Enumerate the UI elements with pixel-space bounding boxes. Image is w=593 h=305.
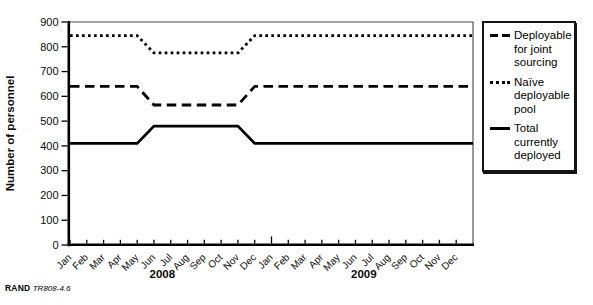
legend: Deployable for joint sourcing Naïve depl… [482,21,576,172]
figure: 0100200300400500600700800900Number of pe… [0,0,593,305]
y-tick-label: 600 [40,90,58,102]
y-tick-label: 700 [40,65,58,77]
month-label: Dec [439,252,459,272]
dashed-line-swatch-icon [490,34,510,37]
plot-frame [69,22,474,246]
y-tick-label: 100 [40,214,58,226]
series-na-ve-deployable-pool [70,36,473,53]
legend-item-deployable-joint-sourcing: Deployable for joint sourcing [490,29,570,70]
month-label: Nov [221,252,241,272]
month-label: Jan [54,252,73,271]
month-label: Sep [187,251,208,272]
month-label: Oct [206,251,225,270]
legend-label-naive-deployable-pool: Naïve deployable pool [514,76,570,117]
legend-label-total-currently-deployed: Total currently deployed [514,122,561,163]
series-total-currently-deployed [70,126,473,143]
month-label: Feb [70,251,90,271]
month-label: Sep [389,251,410,272]
y-tick-label: 400 [40,140,58,152]
solid-line-swatch-icon [490,127,510,130]
month-label: Mar [289,251,309,271]
legend-label-deployable-joint-sourcing: Deployable for joint sourcing [514,29,572,70]
y-tick-label: 300 [40,164,58,176]
dotted-line-swatch-icon [490,81,510,84]
caption-doc-id: TR808-4.6 [33,284,71,293]
legend-item-naive-deployable-pool: Naïve deployable pool [490,76,570,117]
y-axis: 0100200300400500600700800900Number of pe… [4,16,69,251]
month-label: Oct [407,251,426,270]
month-label: May [119,252,140,273]
y-axis-title: Number of personnel [4,76,16,192]
month-label: Feb [272,251,292,271]
y-tick-label: 0 [52,239,58,251]
y-tick-label: 900 [40,16,58,28]
year-label: 2008 [150,268,176,280]
month-label: Jan [256,252,275,271]
y-tick-label: 500 [40,115,58,127]
month-label: Dec [238,252,258,272]
x-axis: JanFebMarAprMayJunJulAugSepOctNovDecJanF… [54,237,474,280]
y-tick-label: 800 [40,41,58,53]
caption-brand: RAND [5,283,30,293]
year-label: 2009 [351,268,377,280]
month-label: Mar [87,251,107,271]
month-label: May [321,252,342,273]
month-label: Nov [422,252,442,272]
y-tick-label: 200 [40,189,58,201]
figure-caption: RAND TR808-4.6 [5,283,71,293]
series-deployable-for-joint-sourcing [70,86,473,105]
legend-item-total-currently-deployed: Total currently deployed [490,122,570,163]
